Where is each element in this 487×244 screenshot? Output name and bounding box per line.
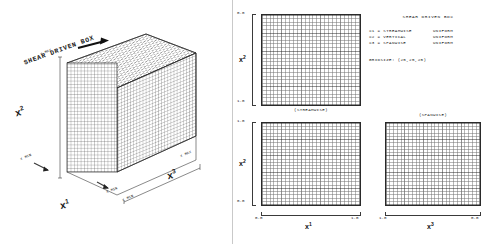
plot-caption: (SPANWISE) <box>385 113 481 117</box>
cube-diagram <box>0 0 232 244</box>
info-block: SHEAR DRIVEN BOX X1 = STREAMWISE UNIFORM… <box>369 14 487 62</box>
y-tick-top: 1.0 <box>237 119 245 123</box>
x-tick-right: 0.0 <box>471 216 479 220</box>
info-key: X3 = SPANWISE <box>369 40 433 46</box>
x-tick-max: 1.0 <box>351 216 359 220</box>
y-tick-bottom: 1.0 <box>237 99 245 103</box>
y-tick-bottom: 0.0 <box>237 199 245 203</box>
x-axis-name: x3 <box>427 221 434 230</box>
x-axis-name: x1 <box>305 221 312 230</box>
axis-label-x1: x1 <box>59 197 70 211</box>
left-panel-3d-box: SHEAR DRIVEN BOX x2 x1 x3 X MAX X MIN X … <box>0 0 232 244</box>
y-axis-name: x2 <box>239 54 246 63</box>
info-title: SHEAR DRIVEN BOX <box>369 14 487 19</box>
gridsize-label: GRIDSIZE: (25,25,25) <box>369 58 487 62</box>
x-axis-bracket <box>261 212 361 216</box>
plot-frame <box>385 122 481 206</box>
cube-front-face <box>67 63 117 172</box>
plot-frame <box>261 14 361 106</box>
plot-streamwise: 0.0 1.0 x2 (STREAMWISE) <box>261 14 361 106</box>
plot-x1-x2: 1.0 0.0 x2 0.0 1.0 x1 <box>261 122 361 214</box>
plot-grid <box>386 123 480 205</box>
x-tick-left: 1.0 <box>379 216 387 220</box>
plot-caption: (STREAMWISE) <box>261 108 361 112</box>
y-axis-bracket <box>252 122 256 206</box>
x-tick-min: 0.0 <box>255 216 263 220</box>
plot-grid <box>262 123 360 205</box>
y-tick-top: 0.0 <box>237 11 245 15</box>
figure-root: SHEAR DRIVEN BOX x2 x1 x3 X MAX X MIN X … <box>0 0 487 244</box>
x-axis-bracket <box>385 212 481 216</box>
plot-spanwise: (SPANWISE) 1.0 0.0 x3 <box>385 122 481 214</box>
plot-frame <box>261 122 361 206</box>
info-row: X3 = SPANWISE UNIFORM <box>369 40 487 46</box>
y-axis-bracket <box>252 14 256 106</box>
plot-grid <box>262 15 360 105</box>
info-value: UNIFORM <box>433 40 477 46</box>
right-panel-grid-plots: SHEAR DRIVEN BOX X1 = STREAMWISE UNIFORM… <box>233 0 487 244</box>
y-axis-name: x2 <box>239 158 246 167</box>
